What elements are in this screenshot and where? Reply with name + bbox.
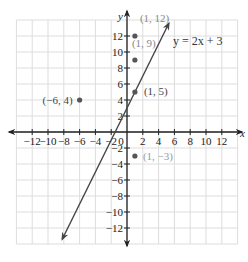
y-tick-label: −12 (106, 222, 123, 234)
point-label: (1, 5) (144, 85, 168, 98)
x-tick-label: −12 (24, 135, 41, 147)
y-axis-label: y (117, 10, 123, 22)
x-tick-label: 12 (216, 135, 227, 147)
coordinate-plane-chart: xy −12−10−8−6−4−2024681012−12−10−8−6−4−2… (0, 0, 248, 262)
point-label: (1, 9) (132, 37, 156, 50)
x-tick-label: 2 (140, 135, 146, 147)
x-tick-label: 6 (172, 135, 178, 147)
y-tick-label: −6 (111, 174, 123, 186)
x-tick-label: −6 (74, 135, 86, 147)
y-tick-label: 4 (118, 94, 124, 106)
x-tick-label: −10 (39, 135, 57, 147)
data-point (132, 57, 137, 62)
data-point (77, 97, 82, 102)
y-tick-label: −8 (111, 190, 123, 202)
equation-label: y = 2x + 3 (173, 34, 223, 48)
data-point (132, 153, 137, 158)
y-tick-label: 10 (112, 46, 124, 58)
x-tick-label: −8 (58, 135, 70, 147)
y-tick-label: 6 (118, 78, 124, 90)
data-point (132, 89, 137, 94)
y-tick-label: −10 (106, 206, 124, 218)
point-label: (1, −3) (143, 150, 173, 163)
x-tick-label: 10 (201, 135, 213, 147)
x-axis-label: x (239, 127, 245, 139)
x-tick-label: 4 (156, 135, 162, 147)
y-tick-label: −2 (111, 142, 123, 154)
point-label: (−6, 4) (43, 94, 73, 107)
point-label: (1, 12) (140, 12, 170, 25)
y-tick-label: −4 (111, 158, 123, 170)
y-tick-label: 8 (118, 62, 124, 74)
x-tick-label: 8 (187, 135, 193, 147)
y-tick-label: 12 (112, 30, 123, 42)
x-tick-label: −4 (90, 135, 102, 147)
